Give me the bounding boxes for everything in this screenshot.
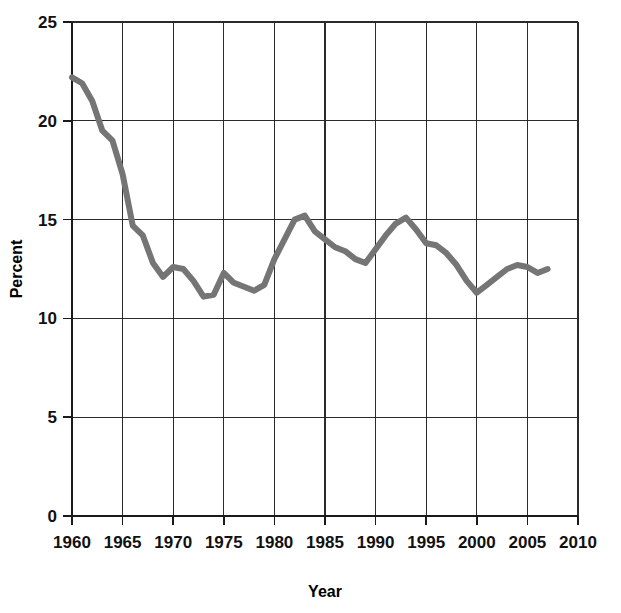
- x-tick-label: 2000: [458, 533, 496, 552]
- x-tick-label: 2010: [559, 533, 597, 552]
- y-axis-title: Percent: [8, 239, 25, 298]
- x-tick-labels: 1960196519701975198019851990199520002005…: [53, 533, 597, 552]
- y-tick-label: 5: [48, 408, 57, 427]
- x-tick-label: 1995: [407, 533, 445, 552]
- y-tick-label: 10: [38, 309, 57, 328]
- x-tick-label: 1980: [255, 533, 293, 552]
- x-tick-label: 1990: [357, 533, 395, 552]
- y-tick-label: 25: [38, 13, 57, 32]
- x-tick-label: 1975: [205, 533, 243, 552]
- x-axis-title: Year: [308, 583, 342, 600]
- x-tick-label: 2005: [508, 533, 546, 552]
- chart-canvas: 0510152025 19601965197019751980198519901…: [0, 0, 621, 613]
- y-tick-label: 0: [48, 507, 57, 526]
- line-chart: 0510152025 19601965197019751980198519901…: [0, 0, 621, 613]
- x-tick-label: 1960: [53, 533, 91, 552]
- y-tick-label: 15: [38, 211, 57, 230]
- x-tick-label: 1985: [306, 533, 344, 552]
- x-tick-label: 1970: [154, 533, 192, 552]
- y-tick-label: 20: [38, 112, 57, 131]
- x-tick-label: 1965: [104, 533, 142, 552]
